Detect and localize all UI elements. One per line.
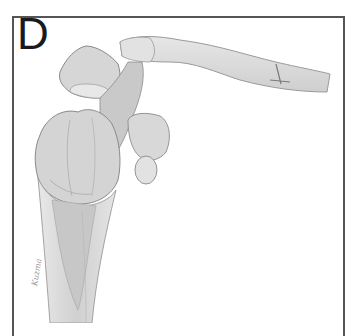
- coracoid: [128, 113, 169, 184]
- humeral-head: [35, 110, 120, 204]
- clavicle: [120, 37, 330, 93]
